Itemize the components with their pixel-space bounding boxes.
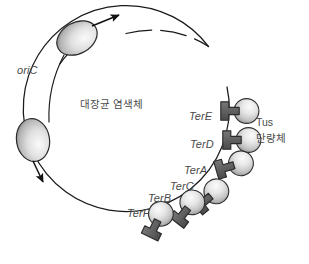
replication-arrow-clockwise (92, 15, 119, 26)
replication-fork-lower (13, 116, 52, 182)
fork-bubble-upper (51, 14, 104, 62)
replication-fork-upper (51, 14, 119, 62)
ecoli-chromosome-figure: oriC 대장균 염색체 TerE TerD TerA TerC TerB Te… (0, 0, 309, 264)
daughter-strand-left (49, 55, 64, 122)
ter-site-label-terD: TerD (190, 138, 214, 150)
ter-site-label-terC: TerC (170, 180, 194, 192)
fork-bubble-lower (13, 116, 52, 164)
ter-site-label-terF: TerF (127, 207, 151, 219)
ter-site-label-terE: TerE (189, 110, 213, 122)
chromosome-diagram-canvas: oriC 대장균 염색체 TerE TerD TerA TerC TerB Te… (0, 0, 309, 264)
ter-site-label-terA: TerA (184, 164, 207, 176)
oric-label: oriC (17, 64, 38, 76)
chromosome-title-label: 대장균 염색체 (80, 98, 143, 110)
tus-label-line1: Tus (256, 116, 273, 128)
tus-monomer-terE (221, 99, 259, 124)
ter-site-label-terB: TerB (148, 192, 171, 204)
tus-label-line2: 단량체 (256, 132, 286, 144)
tus-monomer-terF (139, 197, 178, 242)
replication-arrow-counterclockwise (33, 161, 43, 182)
